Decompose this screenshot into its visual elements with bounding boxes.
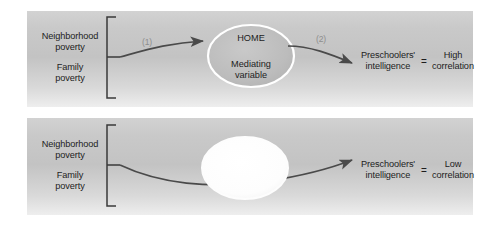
result-line1-bottom: Low xyxy=(445,159,462,169)
result-line2-bottom: correlation xyxy=(432,170,474,180)
path-2-label: (2) xyxy=(310,34,332,45)
predictor-label-line1: Neighborhood xyxy=(42,31,99,41)
mediator-subtitle-line2: variable xyxy=(235,70,267,80)
path-1-label: (1) xyxy=(136,37,158,48)
mediator-subtitle-line1: Mediating xyxy=(231,59,271,69)
outcome-line1-bottom: Preschoolers' xyxy=(361,159,415,169)
predictor-label-line2-bottom: poverty xyxy=(55,150,84,160)
equals-sign-top: = xyxy=(421,56,427,67)
result-line2: correlation xyxy=(432,61,474,71)
predictor-family-poverty-top: Family poverty xyxy=(34,62,106,84)
predictor-label-line1-bottom: Neighborhood xyxy=(42,139,99,149)
predictor2-label-line2: poverty xyxy=(55,73,84,83)
mediator-subtitle: Mediating variable xyxy=(211,59,291,81)
predictor2-label-line1: Family xyxy=(57,62,83,72)
predictor2-label-line2-bottom: poverty xyxy=(55,181,84,191)
predictor-family-poverty-bottom: Family poverty xyxy=(34,170,106,192)
equals-sign-bottom: = xyxy=(421,165,427,176)
outcome-preschoolers-intelligence-top: Preschoolers' intelligence xyxy=(357,50,419,72)
outcome-line2-bottom: intelligence xyxy=(366,170,411,180)
result-line1: High xyxy=(444,50,463,60)
outcome-line2: intelligence xyxy=(366,61,411,71)
outcome-preschoolers-intelligence-bottom: Preschoolers' intelligence xyxy=(357,159,419,181)
predictor-label-line2: poverty xyxy=(55,42,84,52)
diagram-figure: Neighborhood poverty Family poverty (1) … xyxy=(0,0,497,231)
mediator-title-home: HOME xyxy=(211,33,291,44)
predictor2-label-line1-bottom: Family xyxy=(57,170,83,180)
result-low-correlation: Low correlation xyxy=(429,159,477,181)
predictor-neighborhood-poverty-top: Neighborhood poverty xyxy=(34,31,106,53)
predictor-neighborhood-poverty-bottom: Neighborhood poverty xyxy=(34,139,106,161)
result-high-correlation: High correlation xyxy=(429,50,477,72)
outcome-line1: Preschoolers' xyxy=(361,50,415,60)
